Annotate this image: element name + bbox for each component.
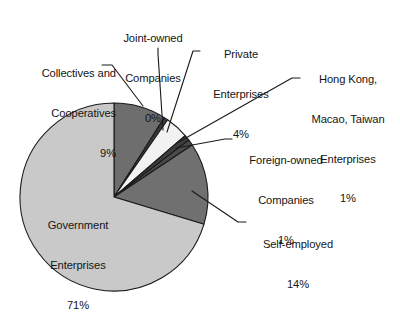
slice-label-self-employed: Self-employed 14% [245,212,351,313]
slice-label-value: 71% [30,299,126,312]
slice-label-line: Collectives and [6,67,116,80]
slice-label-line: Joint-owned [107,32,199,45]
slice-label-line: Enterprises [30,259,126,272]
slice-label-line: Macao, Taiwan [300,113,396,126]
slice-label-line: Government [30,219,126,232]
slice-label-government-enterprises: Government Enterprises 71% [30,193,126,313]
slice-label-line: Private [201,48,281,61]
slice-label-collectives-and-cooperatives: Collectives and Cooperatives 9% [6,41,116,186]
slice-label-line: Cooperatives [6,107,116,120]
slice-label-value: 14% [245,278,351,291]
slice-label-line: Hong Kong, [300,73,396,86]
slice-label-line: Companies [232,194,340,207]
slice-label-line: Enterprises [201,88,281,101]
slice-label-value: 0% [107,112,199,125]
slice-label-value: 9% [6,147,116,160]
slice-label-line: Self-employed [245,238,351,251]
slice-label-joint-owned-companies: Joint-owned Companies 0% [107,6,199,151]
slice-label-line: Foreign-owned [232,154,340,167]
slice-label-line: Companies [107,72,199,85]
